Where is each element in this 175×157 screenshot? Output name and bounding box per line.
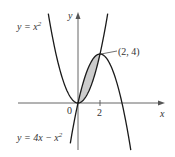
x-axis-label: x <box>159 108 165 119</box>
y-axis-arrow-icon <box>76 12 81 19</box>
chart-figure: (2, 4) y x 0 2 y = x2 y = 4x − x2 <box>0 0 175 157</box>
x-axis-arrow-icon <box>158 101 165 106</box>
annotation-leader <box>101 51 117 54</box>
x-tick-label-2: 2 <box>97 107 102 118</box>
annotation-point-label: (2, 4) <box>118 46 140 58</box>
y-axis-label: y <box>67 10 73 21</box>
curve-label-4x-minus-x-squared: y = 4x − x2 <box>16 131 63 143</box>
origin-label: 0 <box>67 105 72 116</box>
shaded-region <box>78 54 100 103</box>
curve-label-x-squared: y = x2 <box>16 20 42 32</box>
